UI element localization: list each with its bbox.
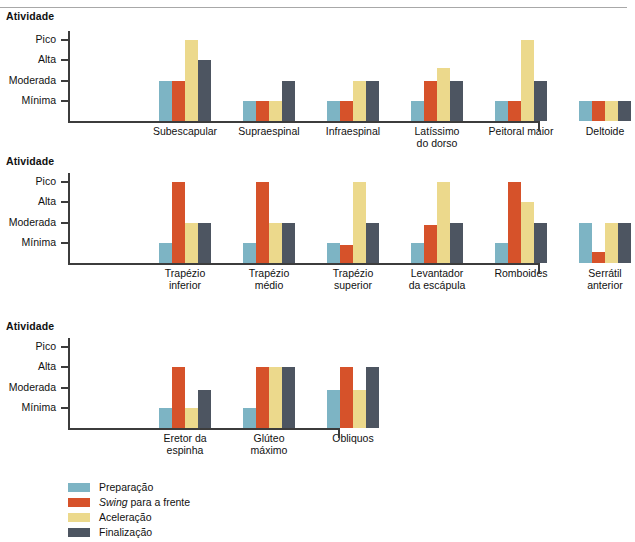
bar: [340, 245, 353, 263]
x-group-label: Trapézio inferior: [142, 268, 228, 291]
y-tick: [61, 59, 70, 61]
bar: [282, 81, 295, 121]
bar: [366, 367, 379, 428]
x-axis-endcap: [538, 121, 540, 131]
bar: [282, 223, 295, 263]
bar: [256, 367, 269, 428]
top-divider-rule: [0, 7, 627, 8]
x-axis-line: [68, 121, 540, 123]
bar: [159, 408, 172, 428]
bar: [592, 252, 605, 263]
y-tick: [61, 366, 70, 368]
y-tick-label: Moderada: [0, 75, 56, 85]
bar: [159, 81, 172, 121]
bar: [424, 225, 437, 263]
bar: [353, 81, 366, 121]
panel-axis-title: Atividade: [6, 10, 54, 22]
x-group-label: Levantador da escápula: [394, 268, 480, 291]
y-axis-line: [68, 338, 70, 430]
x-axis-endcap: [538, 263, 540, 273]
x-group-label: Serrátil anterior: [562, 268, 635, 291]
legend-swatch: [68, 483, 90, 492]
x-group-label: Peitoral maior: [478, 126, 564, 138]
x-group-label: Infraespinal: [310, 126, 396, 138]
y-tick: [61, 80, 70, 82]
bar: [450, 223, 463, 263]
bar: [450, 81, 463, 121]
bar: [508, 182, 521, 263]
plot-area: PicoAltaModeradaMínima: [68, 173, 540, 263]
bar: [340, 367, 353, 428]
y-tick: [61, 201, 70, 203]
bar: [605, 101, 618, 121]
bar: [172, 182, 185, 263]
y-tick: [61, 100, 70, 102]
y-tick-label: Moderada: [0, 217, 56, 227]
x-group-label: Subescapular: [142, 126, 228, 138]
y-tick: [61, 407, 70, 409]
x-group-label: Trapézio superior: [310, 268, 396, 291]
bar: [495, 101, 508, 121]
x-group-label: Romboides: [478, 268, 564, 280]
bar: [618, 223, 631, 263]
y-axis-line: [68, 173, 70, 265]
plot-area: PicoAltaModeradaMínima: [68, 338, 340, 428]
y-tick: [61, 181, 70, 183]
bar: [534, 223, 547, 263]
y-tick-label: Pico: [0, 34, 56, 44]
bar: [256, 182, 269, 263]
bar: [172, 367, 185, 428]
bar: [269, 367, 282, 428]
bar: [340, 101, 353, 121]
x-group-label: Latíssimo do dorso: [394, 126, 480, 149]
y-tick-label: Mínima: [0, 95, 56, 105]
bar: [521, 40, 534, 121]
bar: [327, 390, 340, 428]
bar: [437, 68, 450, 121]
bar: [243, 243, 256, 263]
bar: [521, 202, 534, 263]
y-tick: [61, 39, 70, 41]
y-tick-label: Pico: [0, 341, 56, 351]
bar: [353, 182, 366, 263]
legend-label: Preparação: [99, 481, 153, 494]
x-group-label: Eretor da espinha: [142, 433, 228, 456]
bar: [198, 60, 211, 121]
bar: [159, 243, 172, 263]
legend-swatch: [68, 498, 90, 507]
bar: [269, 101, 282, 121]
bar: [327, 101, 340, 121]
x-group-label: Supraespinal: [226, 126, 312, 138]
bar: [508, 101, 521, 121]
x-axis-line: [68, 263, 540, 265]
y-tick: [61, 242, 70, 244]
x-group-label: Deltoide: [562, 126, 635, 138]
y-tick: [61, 346, 70, 348]
bar: [579, 223, 592, 263]
bar: [269, 223, 282, 263]
bar: [592, 101, 605, 121]
legend-label: Aceleração: [99, 511, 152, 524]
bar: [282, 367, 295, 428]
x-axis-line: [68, 428, 340, 430]
y-tick: [61, 222, 70, 224]
y-tick-label: Alta: [0, 361, 56, 371]
y-tick-label: Pico: [0, 176, 56, 186]
bar: [198, 223, 211, 263]
bar: [495, 243, 508, 263]
x-axis-endcap: [338, 428, 340, 438]
bar: [185, 408, 198, 428]
bar: [366, 223, 379, 263]
bar: [185, 223, 198, 263]
y-tick-label: Alta: [0, 54, 56, 64]
bar: [185, 40, 198, 121]
y-axis-line: [68, 31, 70, 123]
bar: [353, 390, 366, 428]
bar: [243, 408, 256, 428]
legend-swatch: [68, 513, 90, 522]
y-tick-label: Mínima: [0, 402, 56, 412]
bar: [172, 81, 185, 121]
legend-label: Swing para a frente: [99, 496, 190, 509]
bar: [243, 101, 256, 121]
